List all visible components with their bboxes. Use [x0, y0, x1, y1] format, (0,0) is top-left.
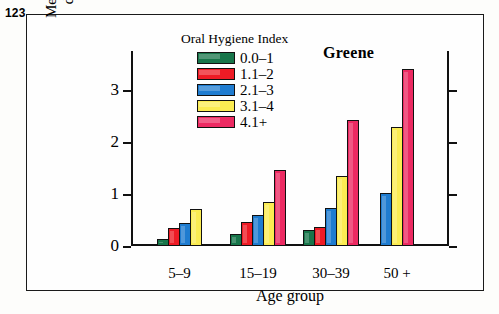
- x-tick-label: 15–19: [239, 265, 277, 282]
- bar-highlight: [305, 233, 309, 243]
- bar-highlight: [404, 72, 408, 243]
- y-tick-left: [123, 194, 131, 196]
- x-axis-tick-labels: 5–915–1930–3950 +: [131, 265, 449, 287]
- bar-highlight: [276, 173, 280, 243]
- y-axis-title: Mean periodontal disease score: [43, 0, 77, 65]
- legend-title: Oral Hygiene Index: [181, 31, 288, 47]
- figure-frame: Mean periodontal disease score Greene Or…: [26, 14, 484, 291]
- bar-highlight: [393, 130, 397, 243]
- figure-page: 123 Mean periodontal disease score Green…: [0, 0, 499, 314]
- bar-group: [380, 51, 413, 246]
- x-tick-label: 50 +: [384, 265, 411, 282]
- bar: [347, 120, 360, 246]
- bar: [190, 209, 203, 246]
- y-tick-label: 1: [111, 184, 120, 204]
- bar: [274, 170, 287, 246]
- bar-highlight: [254, 218, 258, 243]
- y-tick-right: [449, 194, 457, 196]
- bar-highlight: [159, 242, 163, 243]
- y-tick-label: 3: [111, 80, 120, 100]
- bar-group: [230, 51, 285, 246]
- bar-highlight: [349, 123, 353, 243]
- bar-highlight: [382, 196, 386, 243]
- bar-highlight: [243, 225, 247, 243]
- y-tick-right: [449, 90, 457, 92]
- bar-group: [303, 51, 358, 246]
- bar-highlight: [232, 237, 236, 243]
- plot-area: 0123: [131, 51, 449, 246]
- bar: [402, 69, 415, 246]
- y-tick-right: [449, 142, 457, 144]
- y-axis-title-line1: Mean periodontal: [43, 0, 59, 18]
- bar-highlight: [316, 230, 320, 243]
- y-tick-label: 2: [111, 132, 120, 152]
- y-tick-left: [123, 246, 131, 248]
- bar-highlight: [181, 226, 185, 243]
- bar-highlight: [192, 212, 196, 243]
- x-tick-label: 5–9: [168, 265, 191, 282]
- y-tick-left: [123, 142, 131, 144]
- y-tick-left: [123, 90, 131, 92]
- bar-highlight: [170, 231, 174, 243]
- y-axis-title-line2: disease score: [60, 0, 77, 65]
- x-tick-label: 30–39: [312, 265, 350, 282]
- page-number: 123: [5, 6, 26, 20]
- x-axis-title: Age group: [131, 287, 449, 305]
- bar-highlight: [338, 179, 342, 243]
- bar-highlight: [327, 211, 331, 243]
- y-tick-label: 0: [111, 236, 120, 256]
- bar-group: [157, 51, 201, 246]
- y-tick-right: [449, 246, 457, 248]
- bar-groups: [131, 51, 449, 246]
- bar-highlight: [265, 205, 269, 243]
